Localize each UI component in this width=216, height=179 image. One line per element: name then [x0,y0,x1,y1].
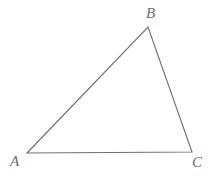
geometry-figure: A B C [0,0,216,179]
vertex-label-b: B [146,6,155,21]
triangle-outline [27,27,192,153]
triangle-shape [0,0,216,179]
vertex-label-a: A [10,154,19,169]
vertex-label-c: C [192,155,202,170]
